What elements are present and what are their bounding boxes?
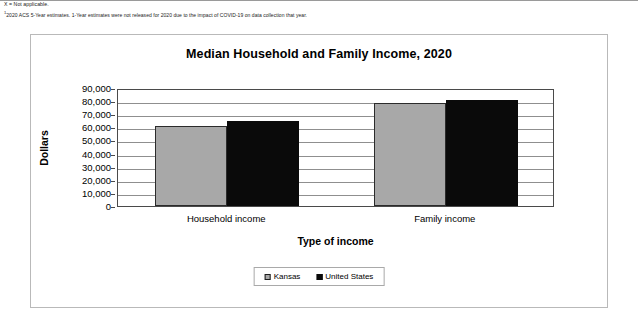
x-axis-category-labels: Household incomeFamily income bbox=[117, 213, 554, 227]
y-axis-tick bbox=[111, 168, 115, 169]
y-axis-title: Dollars bbox=[37, 89, 51, 207]
y-axis-tick-label: 30,000 bbox=[82, 163, 111, 173]
y-axis-tick bbox=[111, 181, 115, 182]
notes-block: X = Not applicable. 12020 ACS 5-Year est… bbox=[4, 1, 634, 19]
y-axis-tick bbox=[111, 115, 115, 116]
legend-swatch-icon bbox=[265, 274, 271, 280]
bars-layer bbox=[118, 90, 553, 206]
bar-kansas-family-income bbox=[374, 103, 446, 206]
y-axis-tick bbox=[111, 155, 115, 156]
y-axis-tick-label: 40,000 bbox=[82, 150, 111, 160]
x-axis-title: Type of income bbox=[117, 235, 554, 247]
legend-label: United States bbox=[325, 272, 373, 281]
y-axis-tick bbox=[111, 194, 115, 195]
x-axis-category-label: Household income bbox=[187, 213, 266, 224]
note-footnote: 12020 ACS 5-Year estimates. 1-Year estim… bbox=[4, 9, 634, 19]
y-axis-tick bbox=[111, 128, 115, 129]
plot-area bbox=[117, 89, 554, 207]
y-axis-tick-label: 90,000 bbox=[82, 84, 111, 94]
y-axis-tick-label: 80,000 bbox=[82, 97, 111, 107]
legend-item-united-states: United States bbox=[316, 272, 373, 281]
legend-label: Kansas bbox=[274, 272, 301, 281]
y-axis-tick-label: 20,000 bbox=[82, 176, 111, 186]
legend-item-kansas: Kansas bbox=[265, 272, 301, 281]
y-axis-tick bbox=[111, 89, 115, 90]
note-not-applicable: X = Not applicable. bbox=[4, 1, 634, 9]
y-axis-tick bbox=[111, 102, 115, 103]
y-axis-tick bbox=[111, 207, 115, 208]
x-axis-category-label: Family income bbox=[414, 213, 475, 224]
bar-united-states-family-income bbox=[446, 100, 518, 206]
bar-united-states-household-income bbox=[227, 121, 299, 206]
y-axis-tick bbox=[111, 141, 115, 142]
y-axis-tick-label: 70,000 bbox=[82, 110, 111, 120]
y-axis-tick-label: 60,000 bbox=[82, 124, 111, 134]
y-axis-tick-labels: 010,00020,00030,00040,00050,00060,00070,… bbox=[59, 89, 115, 207]
chart-legend: KansasUnited States bbox=[254, 267, 385, 286]
legend-swatch-icon bbox=[316, 274, 322, 280]
y-axis-tick-label: 10,000 bbox=[82, 189, 111, 199]
chart-title: Median Household and Family Income, 2020 bbox=[31, 47, 607, 61]
bar-kansas-household-income bbox=[155, 126, 227, 206]
chart-container: Median Household and Family Income, 2020… bbox=[30, 34, 608, 308]
y-axis-tick-label: 50,000 bbox=[82, 137, 111, 147]
footnote-text: 2020 ACS 5-Year estimates. 1-Year estima… bbox=[6, 11, 307, 17]
